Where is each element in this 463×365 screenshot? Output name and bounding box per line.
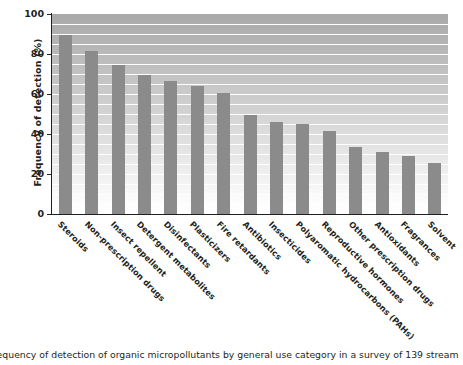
y-tick-label: 80 xyxy=(4,49,44,59)
bar[interactable] xyxy=(59,35,72,214)
bar[interactable] xyxy=(296,124,309,214)
bar-slot xyxy=(342,14,368,214)
bar-slot xyxy=(395,14,421,214)
bar-slot xyxy=(237,14,263,214)
bar-slot xyxy=(263,14,289,214)
y-tick-mark xyxy=(47,54,51,55)
bar[interactable] xyxy=(402,156,415,214)
bar-slot xyxy=(105,14,131,214)
figure-caption: requency of detection of organic micropo… xyxy=(0,349,463,360)
y-tick-label: 20 xyxy=(4,169,44,179)
y-tick-label: 100 xyxy=(4,9,44,19)
y-tick-label: 0 xyxy=(4,209,44,219)
bar[interactable] xyxy=(270,122,283,214)
bar-slot xyxy=(184,14,210,214)
y-tick-mark xyxy=(47,214,51,215)
plot-area xyxy=(52,14,448,214)
y-tick-mark xyxy=(47,174,51,175)
x-axis-label: Antioxidants xyxy=(373,219,422,268)
bar[interactable] xyxy=(428,163,441,214)
x-axis-line xyxy=(51,214,448,215)
bar[interactable] xyxy=(244,115,257,214)
bar[interactable] xyxy=(323,131,336,214)
bar-slot xyxy=(290,14,316,214)
y-axis-title: Frequency of detection (%) xyxy=(32,13,43,213)
bar[interactable] xyxy=(191,86,204,214)
y-axis-line xyxy=(51,13,52,215)
bar[interactable] xyxy=(164,81,177,214)
y-tick-mark xyxy=(47,134,51,135)
y-tick-label: 60 xyxy=(4,89,44,99)
x-axis-label: Disinfectants xyxy=(162,219,213,270)
bar[interactable] xyxy=(349,147,362,214)
bar-series xyxy=(52,14,448,214)
bar[interactable] xyxy=(217,93,230,214)
y-tick-mark xyxy=(47,94,51,95)
bar-slot xyxy=(52,14,78,214)
bar-slot xyxy=(422,14,448,214)
bar-slot xyxy=(158,14,184,214)
bar[interactable] xyxy=(376,152,389,214)
y-tick-mark xyxy=(47,14,51,15)
y-tick-label: 40 xyxy=(4,129,44,139)
bar-slot xyxy=(210,14,236,214)
bar[interactable] xyxy=(138,75,151,214)
bar[interactable] xyxy=(112,65,125,214)
bar-slot xyxy=(78,14,104,214)
bar-slot xyxy=(316,14,342,214)
bar-slot xyxy=(369,14,395,214)
bar-slot xyxy=(131,14,157,214)
bar[interactable] xyxy=(85,51,98,214)
